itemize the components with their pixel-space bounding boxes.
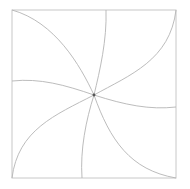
center-hub — [93, 94, 96, 97]
spoke-right-edge — [94, 95, 176, 108]
pinwheel-diagram — [0, 0, 190, 189]
spoke-top-edge — [94, 10, 106, 95]
spoke-top-left-corner — [12, 10, 94, 95]
spoke-bottom-edge — [82, 95, 94, 178]
spoke-left-edge — [12, 80, 94, 95]
